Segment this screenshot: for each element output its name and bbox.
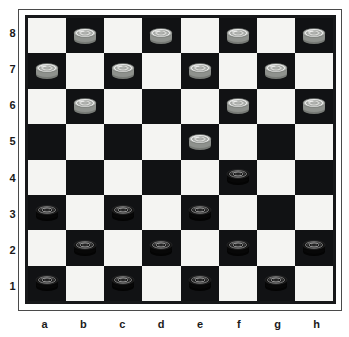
square-b1[interactable] [66,266,104,301]
piece-light-h8[interactable] [300,24,328,46]
square-e1[interactable] [181,266,219,301]
square-e4[interactable] [181,160,219,195]
file-label-e: e [181,313,220,335]
checkers-board[interactable] [28,18,333,301]
square-g7[interactable] [257,53,295,88]
square-h8[interactable] [295,18,333,53]
square-c7[interactable] [104,53,142,88]
square-a7[interactable] [28,53,66,88]
piece-dark-b2[interactable] [71,236,99,258]
file-label-strip: abcdefgh [25,313,336,335]
square-c2[interactable] [104,230,142,265]
piece-dark-f4[interactable] [224,165,252,187]
board-frame [25,15,336,304]
file-label-c: c [103,313,142,335]
square-h5[interactable] [295,124,333,159]
square-a6[interactable] [28,89,66,124]
rank-label-6: 6 [0,87,25,123]
square-g1[interactable] [257,266,295,301]
square-e3[interactable] [181,195,219,230]
piece-dark-e3[interactable] [186,201,214,223]
rank-label-strip: 87654321 [0,15,25,304]
square-b5[interactable] [66,124,104,159]
square-f6[interactable] [219,89,257,124]
square-h3[interactable] [295,195,333,230]
square-g4[interactable] [257,160,295,195]
square-d2[interactable] [142,230,180,265]
square-f3[interactable] [219,195,257,230]
piece-dark-a3[interactable] [33,201,61,223]
square-g3[interactable] [257,195,295,230]
square-a4[interactable] [28,160,66,195]
piece-dark-e1[interactable] [186,271,214,293]
file-label-h: h [297,313,336,335]
square-h6[interactable] [295,89,333,124]
piece-dark-a1[interactable] [33,271,61,293]
piece-dark-c3[interactable] [109,201,137,223]
square-g5[interactable] [257,124,295,159]
square-b3[interactable] [66,195,104,230]
square-e5[interactable] [181,124,219,159]
square-a1[interactable] [28,266,66,301]
rank-label-3: 3 [0,196,25,232]
square-b6[interactable] [66,89,104,124]
square-h1[interactable] [295,266,333,301]
square-a3[interactable] [28,195,66,230]
piece-light-h6[interactable] [300,94,328,116]
square-a2[interactable] [28,230,66,265]
piece-light-b8[interactable] [71,24,99,46]
square-f5[interactable] [219,124,257,159]
square-e8[interactable] [181,18,219,53]
square-f2[interactable] [219,230,257,265]
piece-light-d8[interactable] [147,24,175,46]
file-label-a: a [25,313,64,335]
square-c1[interactable] [104,266,142,301]
square-d6[interactable] [142,89,180,124]
square-b8[interactable] [66,18,104,53]
square-f8[interactable] [219,18,257,53]
piece-dark-h2[interactable] [300,236,328,258]
square-h4[interactable] [295,160,333,195]
piece-light-a7[interactable] [33,59,61,81]
square-c4[interactable] [104,160,142,195]
piece-light-g7[interactable] [262,59,290,81]
square-f7[interactable] [219,53,257,88]
square-e7[interactable] [181,53,219,88]
square-a8[interactable] [28,18,66,53]
piece-light-b6[interactable] [71,94,99,116]
square-d8[interactable] [142,18,180,53]
square-e2[interactable] [181,230,219,265]
square-h2[interactable] [295,230,333,265]
piece-light-c7[interactable] [109,59,137,81]
square-c8[interactable] [104,18,142,53]
square-d1[interactable] [142,266,180,301]
piece-light-f8[interactable] [224,24,252,46]
square-d4[interactable] [142,160,180,195]
piece-light-e5[interactable] [186,130,214,152]
piece-dark-f2[interactable] [224,236,252,258]
square-b4[interactable] [66,160,104,195]
square-d5[interactable] [142,124,180,159]
square-f4[interactable] [219,160,257,195]
piece-light-f6[interactable] [224,94,252,116]
square-f1[interactable] [219,266,257,301]
file-label-f: f [219,313,258,335]
square-h7[interactable] [295,53,333,88]
piece-dark-c1[interactable] [109,271,137,293]
square-d3[interactable] [142,195,180,230]
piece-dark-g1[interactable] [262,271,290,293]
square-d7[interactable] [142,53,180,88]
square-c3[interactable] [104,195,142,230]
square-c6[interactable] [104,89,142,124]
square-g8[interactable] [257,18,295,53]
square-a5[interactable] [28,124,66,159]
square-g2[interactable] [257,230,295,265]
square-e6[interactable] [181,89,219,124]
piece-light-e7[interactable] [186,59,214,81]
piece-dark-d2[interactable] [147,236,175,258]
square-g6[interactable] [257,89,295,124]
rank-label-5: 5 [0,123,25,159]
square-c5[interactable] [104,124,142,159]
square-b7[interactable] [66,53,104,88]
square-b2[interactable] [66,230,104,265]
